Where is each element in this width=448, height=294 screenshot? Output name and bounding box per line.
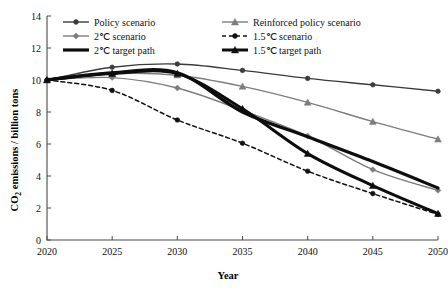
legend-item-onefive_deg_target[interactable]: 1.5℃ target path bbox=[222, 45, 321, 56]
data-point-marker bbox=[370, 167, 376, 173]
legend-item-reinforced[interactable]: Reinforced policy scenario bbox=[222, 17, 361, 28]
chart-container: 02468101214 2020202520302035204020452050… bbox=[0, 0, 448, 294]
x-tick-label: 2050 bbox=[428, 246, 448, 257]
x-tick-label: 2040 bbox=[298, 246, 318, 257]
data-point-marker bbox=[175, 62, 180, 67]
x-tick-label: 2025 bbox=[102, 246, 122, 257]
legend-label: 1.5℃ target path bbox=[253, 45, 321, 56]
data-point-marker bbox=[240, 68, 245, 73]
y-tick-label: 4 bbox=[36, 171, 41, 182]
legend-label: 2℃ scenario bbox=[94, 31, 146, 42]
legend-label: 1.5℃ scenario bbox=[253, 31, 312, 42]
x-tick-label: 2020 bbox=[37, 246, 57, 257]
data-point-marker bbox=[110, 65, 115, 70]
data-point-marker bbox=[436, 89, 441, 94]
legend-item-onefive_deg[interactable]: 1.5℃ scenario bbox=[222, 31, 312, 42]
x-axis-tick-labels: 2020202520302035204020452050 bbox=[37, 246, 448, 257]
y-tick-label: 2 bbox=[36, 203, 41, 214]
data-point-marker bbox=[175, 118, 180, 123]
y-tick-label: 10 bbox=[31, 75, 41, 86]
data-point-marker bbox=[371, 191, 376, 196]
x-tick-label: 2045 bbox=[363, 246, 383, 257]
series-two_deg bbox=[44, 75, 441, 194]
y-tick-label: 0 bbox=[36, 235, 41, 246]
data-point-marker bbox=[305, 169, 310, 174]
data-point-marker bbox=[233, 34, 238, 39]
chart-svg: 02468101214 2020202520302035204020452050… bbox=[0, 0, 448, 294]
series-onefive_deg bbox=[45, 78, 441, 217]
series-line bbox=[47, 77, 438, 190]
data-point-marker bbox=[74, 20, 79, 25]
legend-label: 2℃ target path bbox=[94, 45, 155, 56]
y-tick-label: 8 bbox=[36, 107, 41, 118]
y-tick-label: 12 bbox=[31, 43, 41, 54]
series-line bbox=[47, 80, 438, 214]
x-tick-label: 2030 bbox=[167, 246, 187, 257]
data-point-marker bbox=[110, 88, 115, 93]
data-point-marker bbox=[240, 141, 245, 146]
y-tick-label: 14 bbox=[31, 11, 41, 22]
legend-item-two_deg[interactable]: 2℃ scenario bbox=[63, 31, 146, 42]
y-tick-label: 6 bbox=[36, 139, 41, 150]
x-axis-title: Year bbox=[218, 270, 239, 281]
data-point-marker bbox=[174, 85, 180, 91]
legend-label: Policy scenario bbox=[94, 17, 155, 28]
data-point-marker bbox=[371, 82, 376, 87]
legend-item-policy[interactable]: Policy scenario bbox=[63, 17, 155, 28]
y-axis-title: CO2 emissions / billion tons bbox=[9, 89, 23, 212]
data-point-marker bbox=[305, 76, 310, 81]
y-axis-tick-labels: 02468101214 bbox=[31, 11, 41, 246]
chart-legend: Policy scenario2℃ scenario2℃ target path… bbox=[63, 17, 361, 56]
legend-label: Reinforced policy scenario bbox=[253, 17, 361, 28]
x-tick-label: 2035 bbox=[233, 246, 253, 257]
plot-area bbox=[44, 62, 442, 217]
data-point-marker bbox=[73, 33, 79, 39]
legend-item-two_deg_target[interactable]: 2℃ target path bbox=[63, 45, 155, 56]
